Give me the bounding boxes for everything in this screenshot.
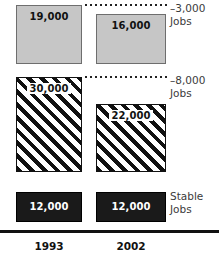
annotation-bottom-unit: Jobs [170,203,203,216]
bar-value-label: 22,000 [109,110,152,121]
bar-light-1993: 19,000 [16,5,82,64]
annotation-bottom-value: Stable [170,190,203,203]
bar-value-label: 12,000 [111,201,150,212]
annotation-middle: –8,000 Jobs [170,74,205,99]
annotation-middle-value: –8,000 [170,74,205,87]
annotation-bottom: Stable Jobs [170,190,203,215]
connector-line-middle [85,76,167,78]
jobs-stacked-bar-chart: 19,000 16,000 –3,000 Jobs 30,000 22,000 … [0,0,219,260]
annotation-top-value: –3,000 [170,2,205,15]
bar-hatched-1993: 30,000 [16,77,82,172]
x-axis-tick-2002: 2002 [96,240,166,252]
connector-line-top [85,4,167,6]
annotation-middle-unit: Jobs [170,87,205,100]
x-axis-tick-1993: 1993 [16,240,82,252]
bar-value-label: 12,000 [29,201,68,212]
annotation-top: –3,000 Jobs [170,2,205,27]
bar-dark-2002: 12,000 [96,192,166,222]
bar-light-2002: 16,000 [96,14,166,64]
annotation-top-unit: Jobs [170,15,205,28]
bar-hatched-2002: 22,000 [96,104,166,172]
bar-value-label: 19,000 [29,11,68,22]
bar-value-label: 16,000 [111,20,150,31]
bar-dark-1993: 12,000 [16,192,82,222]
x-axis-rule [0,230,219,233]
bar-value-label: 30,000 [27,83,70,94]
